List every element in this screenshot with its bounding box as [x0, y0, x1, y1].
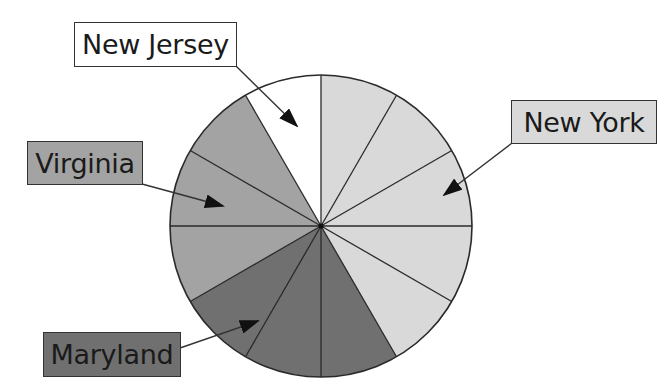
maryland-label-text: Maryland [51, 339, 174, 370]
pie-center-dot [319, 224, 324, 229]
maryland-label: Maryland [43, 332, 181, 377]
new-york-label: New York [511, 100, 657, 144]
new-york-label-text: New York [523, 107, 644, 138]
chart-title-cropped: Map [0, 0, 668, 13]
virginia-label-text: Virginia [35, 148, 134, 179]
virginia-label: Virginia [27, 141, 143, 185]
new-jersey-label: New Jersey [74, 22, 237, 67]
new-jersey-label-text: New Jersey [82, 29, 229, 60]
